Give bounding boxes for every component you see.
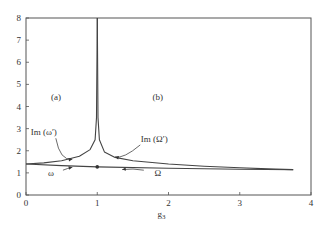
annotation-label: (b) bbox=[153, 92, 164, 102]
arrowhead-icon bbox=[68, 166, 72, 169]
annotation-arrow bbox=[115, 145, 140, 157]
y-tick-label: 4 bbox=[17, 102, 22, 112]
y-tick-label: 3 bbox=[17, 124, 22, 134]
y-tick-label: 2 bbox=[17, 146, 22, 156]
annotation-arrow bbox=[56, 138, 73, 159]
annotation-label: Im (ω′) bbox=[31, 127, 57, 137]
x-tick-label: 4 bbox=[309, 198, 314, 208]
y-tick-label: 7 bbox=[17, 35, 22, 45]
series-line-2 bbox=[26, 164, 97, 167]
series-line-1 bbox=[97, 18, 293, 170]
x-axis-label: g3 bbox=[157, 209, 166, 221]
annotation-label: Ω bbox=[154, 168, 161, 178]
y-tick-label: 5 bbox=[17, 79, 22, 89]
x-tick-label: 1 bbox=[95, 198, 100, 208]
series-line-0 bbox=[26, 18, 97, 164]
x-tick-label: 0 bbox=[24, 198, 29, 208]
y-tick-label: 8 bbox=[17, 13, 22, 23]
x-tick-label: 2 bbox=[166, 198, 171, 208]
annotation-label: ω bbox=[48, 168, 54, 178]
marker-dot bbox=[95, 165, 99, 169]
y-tick-label: 1 bbox=[17, 168, 22, 178]
y-tick-label: 0 bbox=[17, 190, 22, 200]
x-tick-label: 3 bbox=[238, 198, 243, 208]
annotation-label: (a) bbox=[51, 92, 61, 102]
annotation-label: Im (Ω′) bbox=[141, 134, 168, 144]
y-tick-label: 6 bbox=[17, 57, 22, 67]
chart: 01234567801234g3(a)(b)Im (ω′)Im (Ω′)ωΩ bbox=[0, 0, 327, 225]
